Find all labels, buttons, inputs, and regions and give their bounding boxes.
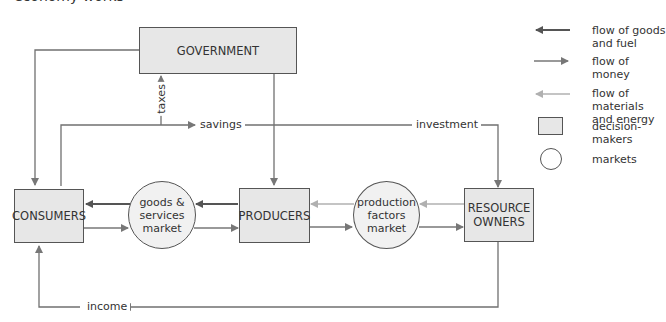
producers-label: PRODUCERS: [239, 209, 311, 223]
government-node: GOVERNMENT: [139, 27, 297, 74]
legend-decision-makers: decision-makers: [592, 120, 666, 146]
government-label: GOVERNMENT: [177, 44, 259, 58]
markets-legend-icon: [540, 148, 562, 170]
resource-owners-node: RESOURCE OWNERS: [464, 188, 534, 242]
producers-node: PRODUCERS: [239, 188, 310, 243]
production-factors-market-node: production factors market: [353, 181, 420, 249]
resource-owners-label-line2: OWNERS: [473, 215, 525, 229]
goods-market-line3: market: [142, 222, 181, 235]
income-label: income: [84, 301, 130, 313]
investment-label: investment: [413, 119, 481, 131]
goods-market-line1: goods &: [139, 196, 184, 209]
goods-market-line2: services: [139, 209, 184, 222]
legend-goods-fuel: flow of goods and fuel: [592, 24, 665, 50]
savings-label: savings: [197, 119, 245, 131]
factors-market-line2: factors: [368, 209, 406, 222]
consumers-node: CONSUMERS: [14, 189, 84, 243]
flow-lines: [0, 0, 666, 322]
factors-market-line1: production: [357, 196, 416, 209]
resource-owners-label-line1: RESOURCE: [468, 201, 531, 215]
legend-markets: markets: [592, 153, 637, 166]
decision-makers-legend-icon: [538, 117, 563, 135]
taxes-label: taxes: [156, 82, 168, 116]
factors-market-line3: market: [367, 222, 406, 235]
legend-money: flow of money: [592, 55, 666, 81]
consumers-label: CONSUMERS: [12, 209, 86, 223]
goods-services-market-node: goods & services market: [128, 181, 196, 249]
